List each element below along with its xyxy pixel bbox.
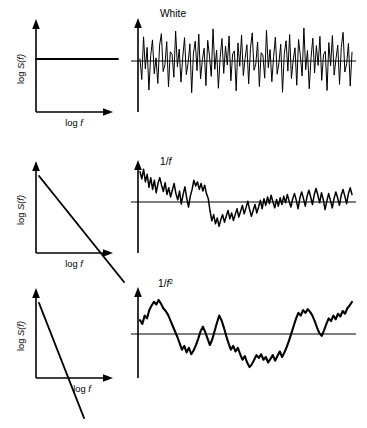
spectrum-pink-xlabel: log f [65,259,84,269]
signal-panel-white: White [131,8,356,112]
spectrum-white-yaxis-arrowhead [32,19,40,29]
row-white: log S(f) log f White [16,8,356,128]
row-pink: log S(f) log f 1/f [16,156,356,282]
spectrum-brown-xlabel: log f [73,384,92,394]
signal-brown-yaxis-arrowhead [134,287,142,297]
signal-panel-brown: 1/f2 [131,278,356,379]
signal-pink-label: 1/f [160,156,173,167]
spectrum-pink-yaxis-arrowhead [32,161,40,171]
signal-brown-label: 1/f2 [158,278,173,290]
signal-white-yaxis-arrowhead [134,18,142,28]
spectrum-pink-xaxis-arrowhead [103,249,113,257]
noise-figure: log S(f) log f White log S(f) [0,0,367,428]
spectrum-brown-ylabel: log S(f) [16,321,26,351]
spectrum-panel-brown: log S(f) log f [16,288,113,418]
spectrum-white-ylabel: log S(f) [16,54,26,84]
signal-pink-trace [140,169,352,226]
spectrum-brown-curve [39,303,84,418]
signal-pink-yaxis-arrowhead [134,160,142,170]
row-brown: log S(f) log f 1/f2 [16,278,356,419]
spectrum-white-xlabel: log f [65,118,84,128]
spectrum-brown-xaxis-arrowhead [103,374,113,382]
spectrum-white-xaxis-arrowhead [103,108,113,116]
signal-white-trace [140,28,352,93]
figure-svg: log S(f) log f White log S(f) [0,0,367,428]
spectrum-brown-yaxis-arrowhead [32,288,40,298]
signal-white-label: White [160,8,186,19]
spectrum-panel-pink: log S(f) log f [16,161,124,282]
spectrum-panel-white: log S(f) log f [16,19,118,128]
spectrum-pink-ylabel: log S(f) [16,195,26,225]
signal-panel-pink: 1/f [131,156,356,253]
